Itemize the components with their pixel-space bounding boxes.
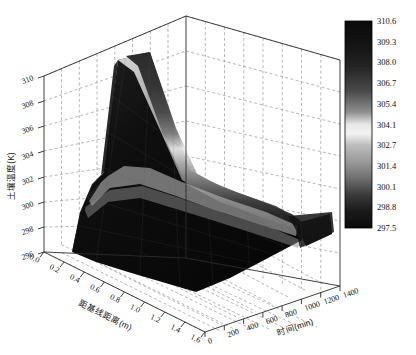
xtick-0.6: 0.6 xyxy=(89,282,102,294)
cbtick-304.1: 304.1 xyxy=(377,120,396,130)
ztick-310: 310 xyxy=(20,73,34,86)
colorbar xyxy=(345,21,372,228)
yaxis-label: 时间(min) xyxy=(276,316,315,338)
cbtick-301.4: 301.4 xyxy=(377,161,397,171)
xtick-0.8: 0.8 xyxy=(109,292,122,304)
ytick-0: 0 xyxy=(207,336,214,346)
ytick-200: 200 xyxy=(226,327,240,339)
ztick-300: 300 xyxy=(20,199,34,212)
xtick-1.0: 1.0 xyxy=(129,302,142,314)
ztick-306: 306 xyxy=(20,123,34,136)
xaxis-label: 距基线距离(m) xyxy=(77,298,133,332)
cbtick-306.7: 306.7 xyxy=(377,78,396,88)
xtick-0.4: 0.4 xyxy=(68,272,81,284)
zaxis-label: 土壤温度(K) xyxy=(6,152,16,200)
zaxis-ticks xyxy=(38,76,44,254)
figure-3d-surface-plot: 296 298 300 302 304 306 308 310 土壤温度(K) … xyxy=(0,0,416,355)
xtick-1.6: 1.6 xyxy=(189,332,202,344)
cbtick-300.1: 300.1 xyxy=(377,182,396,192)
ztick-302: 302 xyxy=(20,174,34,187)
cbtick-298.8: 298.8 xyxy=(377,202,396,212)
colorbar-tick-labels: 310.6 309.3 308.0 306.7 305.4 304.1 302.… xyxy=(377,16,397,233)
cbtick-308.0: 308.0 xyxy=(377,57,396,67)
xtick-0.2: 0.2 xyxy=(48,262,61,274)
ztick-304: 304 xyxy=(20,149,34,162)
ytick-800: 800 xyxy=(284,307,298,319)
cbtick-309.3: 309.3 xyxy=(377,37,396,47)
cbtick-310.6: 310.6 xyxy=(377,16,396,26)
colorbar-gradient xyxy=(345,21,372,228)
ytick-1200: 1200 xyxy=(322,293,340,307)
cbtick-302.7: 302.7 xyxy=(377,140,396,150)
ytick-1400: 1400 xyxy=(342,286,360,300)
cbtick-297.5: 297.5 xyxy=(377,223,396,233)
ztick-298: 298 xyxy=(20,224,34,237)
xtick-1.4: 1.4 xyxy=(169,322,182,334)
plot-svg: 296 298 300 302 304 306 308 310 土壤温度(K) … xyxy=(0,0,416,355)
xtick-1.2: 1.2 xyxy=(149,312,162,324)
zaxis-tick-labels: 296 298 300 302 304 306 308 310 xyxy=(20,73,34,262)
cbtick-305.4: 305.4 xyxy=(377,99,397,109)
ytick-400: 400 xyxy=(245,320,259,332)
ytick-1000: 1000 xyxy=(303,299,321,313)
xtick-0.0: 0.0 xyxy=(28,252,41,264)
ztick-308: 308 xyxy=(20,98,34,111)
